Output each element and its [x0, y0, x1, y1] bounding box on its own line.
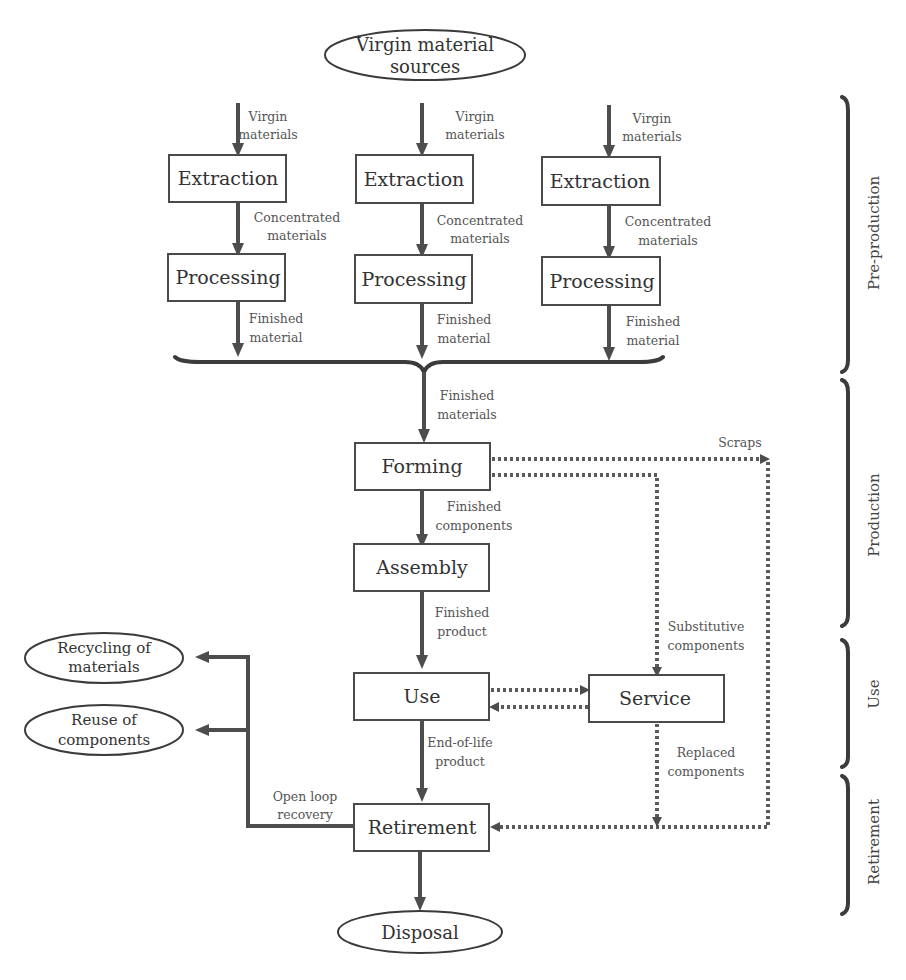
edge-label: materials — [450, 231, 510, 246]
retirement-label: Retirement — [368, 816, 477, 838]
edge-label: Replaced — [677, 745, 736, 760]
reuse-line2: components — [58, 731, 150, 749]
edge-label: recovery — [277, 807, 333, 822]
edge-label: Concentrated — [437, 213, 523, 228]
node-forming: Forming — [355, 443, 490, 490]
scraps-label: Scraps — [718, 435, 761, 450]
node-reuse-of-components: Reuse of components — [25, 705, 183, 755]
assembly-label: Assembly — [375, 556, 468, 578]
edge-label: components — [436, 518, 513, 533]
brace-production — [842, 380, 848, 626]
node-service: Service — [589, 675, 724, 722]
processing-label-2: Processing — [361, 268, 466, 290]
phase-label-pre-production: Pre-production — [865, 176, 883, 291]
node-use: Use — [354, 673, 489, 720]
column-3: Virgin materials Extraction Concentrated… — [542, 105, 711, 354]
edge-label: components — [668, 764, 745, 779]
edge-label: materials — [267, 228, 327, 243]
recycling-line2: materials — [68, 658, 139, 676]
brace-pre-production — [842, 97, 848, 372]
edge-label: Open loop — [273, 789, 338, 804]
node-disposal: Disposal — [338, 911, 502, 953]
edge-label: material — [626, 333, 679, 348]
edge-label: materials — [638, 233, 698, 248]
edge-label: materials — [445, 127, 505, 142]
edge-label: materials — [622, 129, 682, 144]
column-2: Virgin materials Extraction Concentrated… — [355, 103, 523, 352]
edge-label: materials — [238, 127, 298, 142]
edge-label: Finished — [249, 311, 304, 326]
edge-label: components — [668, 638, 745, 653]
phase-label-production: Production — [865, 473, 883, 557]
column-1: Virgin materials Extraction Concentrated… — [168, 103, 340, 350]
edge-label: End-of-life — [427, 735, 492, 750]
phase-label-retirement: Retirement — [865, 799, 883, 885]
edge-label: Finished — [435, 605, 490, 620]
virgin-sources-line1: Virgin material — [355, 34, 494, 55]
node-retirement: Retirement — [354, 804, 489, 851]
processing-label-1: Processing — [175, 266, 280, 288]
edge-label: product — [437, 624, 487, 639]
disposal-label: Disposal — [381, 922, 459, 943]
edge-label: Finished — [437, 312, 492, 327]
service-label: Service — [619, 687, 691, 709]
edge-label: Virgin — [248, 109, 288, 124]
edge-label: Finished — [440, 388, 495, 403]
edge-label: material — [249, 330, 302, 345]
edge-label: product — [435, 754, 485, 769]
edge-label: Virgin — [632, 111, 672, 126]
edge-label: Virgin — [455, 109, 495, 124]
extraction-label-1: Extraction — [178, 167, 279, 189]
forming-label: Forming — [381, 455, 462, 477]
node-assembly: Assembly — [354, 544, 489, 591]
edge-label: Finished — [626, 314, 681, 329]
edge-label: Concentrated — [625, 214, 711, 229]
node-recycling-of-materials: Recycling of materials — [25, 633, 183, 683]
edge-label: material — [437, 331, 490, 346]
brace-retirement — [842, 776, 848, 914]
edge-label: materials — [437, 407, 497, 422]
brace-use — [842, 640, 848, 767]
substitutive-components-arrow — [492, 475, 657, 672]
node-virgin-material-sources: Virgin material sources — [325, 30, 525, 80]
extraction-label-2: Extraction — [364, 168, 465, 190]
phase-label-use: Use — [865, 679, 883, 708]
recycling-line1: Recycling of — [57, 639, 152, 657]
edge-label: Concentrated — [254, 210, 340, 225]
life-cycle-diagram: Virgin material sources Virgin materials… — [0, 0, 906, 980]
extraction-label-3: Extraction — [550, 170, 651, 192]
edge-label: Finished — [447, 499, 502, 514]
use-label: Use — [403, 685, 440, 707]
reuse-line1: Reuse of — [71, 711, 138, 729]
edge-label: Substitutive — [668, 619, 745, 634]
processing-label-3: Processing — [549, 270, 654, 292]
virgin-sources-line2: sources — [390, 56, 460, 77]
merge-brace — [175, 357, 663, 372]
